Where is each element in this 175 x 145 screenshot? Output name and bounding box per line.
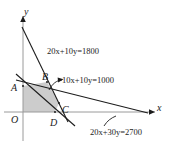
equation-text: 20x+10y=1800 (47, 46, 99, 56)
x-axis-arrowhead (149, 109, 155, 115)
point-label-a: A (11, 83, 17, 93)
equation-text: 10x+10y=1000 (62, 75, 114, 85)
equation-label-20x-10y-1800: 20x+10y=1800 (47, 47, 99, 56)
vertex-dot-a (22, 85, 24, 87)
graph-figure: 20x+10y=1800 10x+10y=1000 20x+30y=2700 A… (0, 0, 175, 145)
callout-leader-20x-30y-2700 (104, 116, 116, 126)
equation-label-10x-10y-1000: 10x+10y=1000 (62, 76, 114, 85)
point-label-b: B (42, 72, 48, 82)
y-axis-label: y (24, 7, 28, 17)
point-label-d: D (50, 118, 57, 128)
x-axis-label: x (157, 103, 161, 113)
graph-canvas (0, 0, 175, 145)
equation-label-20x-30y-2700: 20x+30y=2700 (90, 128, 142, 137)
point-label-c: C (62, 105, 69, 115)
point-label-origin: O (11, 115, 18, 125)
vertex-dot-d (54, 111, 56, 113)
vertex-dot-c (58, 102, 60, 104)
equation-text: 20x+30y=2700 (90, 127, 142, 137)
